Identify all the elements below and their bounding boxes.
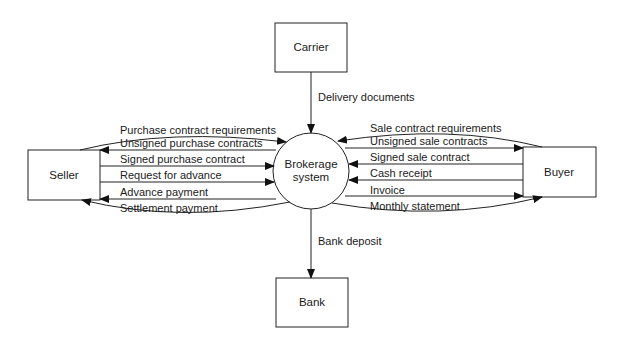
buyer-entity: Buyer bbox=[523, 147, 596, 197]
buyer-flow-label: Unsigned sale contracts bbox=[370, 135, 488, 147]
seller-flow-label: Unsigned purchase contracts bbox=[120, 137, 263, 149]
buyer-flow-label: Sale contract requirements bbox=[370, 122, 502, 134]
delivery-documents-label: Delivery documents bbox=[318, 91, 415, 103]
seller-flow-label: Signed purchase contract bbox=[120, 153, 245, 165]
buyer-flow-label: Invoice bbox=[370, 184, 405, 196]
buyer-flow-label: Signed sale contract bbox=[370, 151, 470, 163]
bank-entity: Bank bbox=[276, 278, 348, 327]
seller-flow-label: Request for advance bbox=[120, 169, 222, 181]
carrier-label: Carrier bbox=[293, 41, 328, 53]
buyer-flow-label: Monthly statement bbox=[370, 200, 460, 212]
brokerage-system-process: Brokerage system bbox=[273, 133, 349, 209]
seller-entity: Seller bbox=[28, 150, 100, 200]
carrier-entity: Carrier bbox=[275, 23, 347, 72]
seller-flow-label: Purchase contract requirements bbox=[120, 124, 276, 136]
seller-flow-label: Settlement payment bbox=[120, 202, 218, 214]
bank-label: Bank bbox=[299, 296, 325, 308]
buyer-label: Buyer bbox=[544, 166, 574, 178]
process-label-line2: system bbox=[293, 171, 329, 183]
buyer-flow-label: Cash receipt bbox=[370, 167, 432, 179]
data-flow-diagram: Carrier Delivery documents Brokerage sys… bbox=[0, 0, 624, 341]
bank-deposit-label: Bank deposit bbox=[318, 235, 382, 247]
seller-flow-label: Advance payment bbox=[120, 186, 208, 198]
process-label-line1: Brokerage bbox=[284, 158, 337, 170]
seller-label: Seller bbox=[49, 169, 79, 181]
